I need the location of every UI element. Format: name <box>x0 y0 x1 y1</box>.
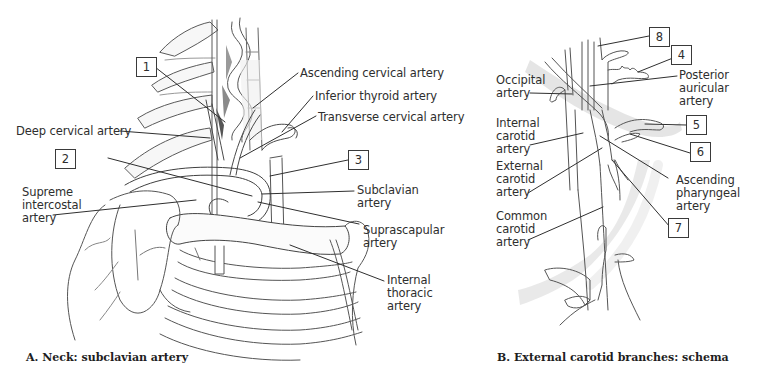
ribs <box>160 250 362 360</box>
label-internal-thoracic-artery: Internal thoracic artery <box>387 274 433 313</box>
label-ascending-pharyngeal-artery: Ascending pharyngeal artery <box>676 174 740 213</box>
label-external-carotid-artery: External carotid artery <box>496 160 543 199</box>
label-ascending-cervical-artery: Ascending cervical artery <box>300 67 444 80</box>
caption-panel-b: B. External carotid branches: schema <box>497 351 729 364</box>
label-supreme-intercostal-artery: Supreme intercostal artery <box>22 186 82 225</box>
digastric-shading <box>525 60 682 137</box>
panel-b-external-carotid-schema: Occipital artery Posterior auricular art… <box>490 0 770 371</box>
label-inferior-thyroid-artery: Inferior thyroid artery <box>315 90 437 103</box>
callout-box-1: 1 <box>136 57 157 77</box>
callout-box-6: 6 <box>690 142 711 162</box>
label-occipital-artery: Occipital artery <box>496 74 545 100</box>
label-deep-cervical-artery: Deep cervical artery <box>16 125 131 138</box>
label-transverse-cervical-artery: Transverse cervical artery <box>318 111 464 124</box>
callout-box-4: 4 <box>671 45 692 65</box>
callout-box-2: 2 <box>55 149 76 169</box>
label-common-carotid-artery: Common carotid artery <box>496 210 547 249</box>
callout-box-3: 3 <box>348 150 369 170</box>
shoulder-scapula <box>68 191 191 340</box>
callout-box-8: 8 <box>649 27 670 47</box>
callout-box-7: 7 <box>668 218 689 238</box>
label-suprascapular-artery: Suprascapular artery <box>363 224 444 250</box>
callout-box-5: 5 <box>686 115 707 135</box>
label-internal-carotid-artery: Internal carotid artery <box>496 117 540 156</box>
clavicle <box>166 214 349 255</box>
label-subclavian-artery: Subclavian artery <box>357 184 419 210</box>
caption-panel-a: A. Neck: subclavian artery <box>26 351 188 364</box>
label-posterior-auricular-artery: Posterior auricular artery <box>679 69 729 108</box>
panel-a-neck-subclavian: Ascending cervical artery Inferior thyro… <box>0 0 490 371</box>
cervical-vertebrae <box>125 22 218 178</box>
leader-lines <box>528 36 690 240</box>
